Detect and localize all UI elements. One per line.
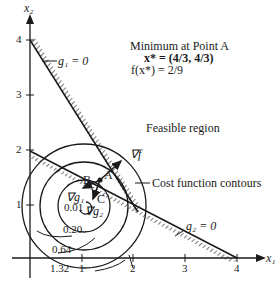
- point-b-label: B: [83, 174, 91, 186]
- point-a-label: A: [104, 169, 113, 181]
- y-tick-2: 2: [16, 144, 22, 155]
- contour-0-01: 0.01: [64, 202, 83, 213]
- y-tick-4: 4: [16, 34, 22, 45]
- contour-0-20: 0.20: [63, 224, 82, 235]
- x-tick-1: 1: [79, 263, 85, 274]
- y-axis-label: x₂: [24, 2, 34, 14]
- y-tick-1: 1: [16, 199, 22, 210]
- axes: [12, 14, 266, 278]
- g2-label: g₂ = 0: [186, 220, 216, 232]
- f-star-value: f(x*) = 2/9: [131, 64, 183, 76]
- x-tick-2: 2: [130, 263, 136, 274]
- point-a-marker: [98, 178, 103, 183]
- contour-0-64: 0.64: [52, 244, 71, 255]
- grad-g2-label: ∇g₂: [85, 205, 103, 217]
- cost-contours-label: Cost function contours: [152, 177, 261, 189]
- contour-1-32: 1.32: [50, 263, 69, 274]
- y-axis-arrow-icon: [26, 14, 34, 24]
- x-axis-label: x₁: [266, 252, 276, 264]
- x-tick-3: 3: [182, 263, 188, 274]
- feasible-region-label: Feasible region: [146, 122, 220, 134]
- x-tick-4: 4: [234, 263, 240, 274]
- x-axis-arrow-icon: [256, 254, 266, 262]
- y-tick-3: 3: [16, 89, 22, 100]
- g1-label: g₁ = 0: [58, 55, 88, 67]
- grad-f-label: ∇f: [130, 148, 141, 160]
- point-c-label: C: [97, 193, 105, 205]
